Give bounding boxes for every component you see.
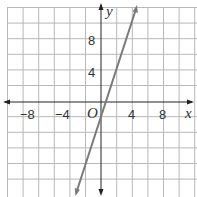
- line-bottom-arrow-icon: [75, 188, 80, 196]
- y-axis-up-arrow-icon: [99, 3, 104, 10]
- plotted-line: [75, 5, 138, 196]
- line-top-arrow-icon: [133, 5, 138, 13]
- x-tick-label: 4: [128, 108, 135, 121]
- x-tick-label: 8: [159, 108, 166, 121]
- y-axis-down-arrow-icon: [99, 189, 104, 196]
- y-axis-label: y: [106, 4, 113, 19]
- x-tick-label: −4: [55, 108, 70, 121]
- y-tick-label: 4: [88, 66, 95, 79]
- x-axis-right-arrow-icon: [187, 100, 194, 105]
- x-tick-label: −8: [20, 108, 35, 121]
- axes: [3, 3, 194, 196]
- x-axis-left-arrow-icon: [3, 100, 10, 105]
- x-axis-label: x: [185, 106, 192, 121]
- y-tick-label: 8: [88, 34, 95, 47]
- coordinate-grid: [0, 0, 197, 197]
- origin-label: O: [87, 106, 98, 121]
